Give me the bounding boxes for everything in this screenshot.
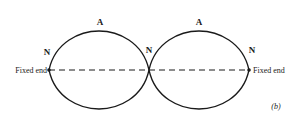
antinode-label-right: A [196, 17, 203, 27]
node-label-left: N [44, 47, 51, 57]
panel-label: (b) [271, 102, 281, 111]
node-label-middle: N [146, 45, 153, 55]
fixed-end-label-right: Fixed end [253, 66, 285, 75]
right-fixed-end-dot [247, 68, 251, 72]
fixed-end-label-left: Fixed end [15, 66, 47, 75]
node-label-right: N [249, 45, 256, 55]
left-fixed-end-dot [47, 68, 51, 72]
antinode-label-left: A [97, 17, 104, 27]
standing-wave-diagram: A A N N N Fixed end Fixed end (b) [0, 0, 298, 120]
